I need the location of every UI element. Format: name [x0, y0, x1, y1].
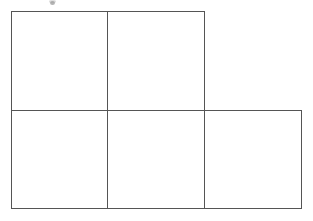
cell-r0-c1	[107, 11, 204, 110]
cell-r1-c1	[107, 110, 204, 208]
cell-r1-c0	[11, 110, 107, 208]
grid-figure	[0, 0, 313, 221]
cell-r1-c2	[204, 110, 301, 208]
cell-r0-c0	[11, 11, 107, 110]
figure-canvas	[0, 0, 313, 221]
